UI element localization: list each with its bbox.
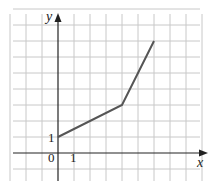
- origin-label: 0: [48, 150, 55, 165]
- chart: y x 0 1 1: [0, 0, 215, 188]
- y-axis: [55, 13, 62, 181]
- x-axis-label: x: [196, 155, 204, 170]
- grid: [10, 9, 202, 181]
- y-tick-1-label: 1: [48, 130, 55, 145]
- y-axis-label: y: [44, 9, 53, 24]
- y-arrow-icon: [55, 13, 62, 22]
- x-tick-1-label: 1: [70, 150, 77, 165]
